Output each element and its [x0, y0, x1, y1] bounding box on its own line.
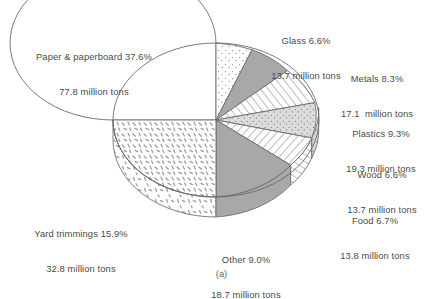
label-plastics-line1: Plastics 9.3%	[322, 128, 440, 140]
label-yard-trimmings: Yard trimmings 15.9% 32.8 million tons	[8, 205, 154, 298]
label-paper-paperboard-line1: Paper & paperboard 37.6%	[6, 51, 182, 63]
figure-caption: (a)	[0, 268, 443, 279]
label-food-line2: 13.8 million tons	[318, 250, 432, 262]
label-other-line1: Other 9.0%	[185, 254, 307, 266]
label-wood-line1: Wood 6.6%	[325, 169, 439, 181]
label-glass-line1: Glass 6.6%	[240, 35, 372, 47]
label-other: Other 9.0% 18.7 million tons	[185, 231, 307, 299]
label-yard-trimmings-line1: Yard trimmings 15.9%	[8, 228, 154, 240]
pie-chart-figure: Paper & paperboard 37.6% 77.8 million to…	[0, 0, 443, 299]
slice-yard-trimmings[interactable]	[113, 120, 216, 197]
label-paper-paperboard: Paper & paperboard 37.6% 77.8 million to…	[6, 28, 182, 121]
label-metals-line1: Metals 8.3%	[315, 73, 439, 85]
label-other-line2: 18.7 million tons	[185, 289, 307, 299]
label-food-line1: Food 6.7%	[318, 215, 432, 227]
label-paper-paperboard-line2: 77.8 million tons	[6, 86, 182, 98]
